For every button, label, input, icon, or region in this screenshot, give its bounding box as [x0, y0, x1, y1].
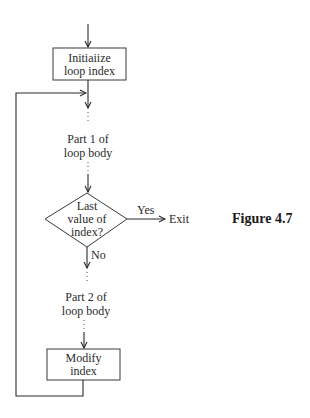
decision-label-line2: value of: [68, 212, 107, 226]
part2-node: Part 2 of loop body: [62, 290, 110, 318]
init-box: Initiaiize loop index: [53, 48, 126, 80]
exit-label: Exit: [169, 212, 190, 226]
part2-label-line2: loop body: [62, 304, 110, 318]
part1-node: Part 1 of loop body: [64, 132, 112, 160]
modify-label-line2: index: [70, 364, 97, 378]
yes-label: Yes: [137, 203, 155, 217]
decision-label-line3: index?: [71, 225, 103, 239]
no-label: No: [91, 248, 106, 262]
part1-label-line1: Part 1 of: [67, 132, 108, 146]
init-label-line1: Initiaiize: [68, 51, 111, 65]
part2-label-line1: Part 2 of: [65, 290, 106, 304]
part1-label-line2: loop body: [64, 146, 112, 160]
modify-label-line1: Modify: [66, 351, 102, 365]
loop-flowchart: Initiaiize loop index Part 1 of loop bod…: [0, 0, 310, 418]
decision-diamond: Last value of index?: [45, 193, 127, 247]
init-label-line2: loop index: [64, 64, 115, 78]
decision-label-line1: Last: [77, 199, 98, 213]
modify-box: Modify index: [47, 349, 120, 380]
figure-caption: Figure 4.7: [232, 211, 292, 226]
